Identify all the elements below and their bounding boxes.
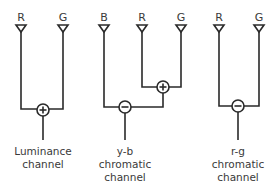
wire (244, 32, 259, 106)
luminance-channel: R G Luminance channel (14, 11, 71, 170)
input-label-r: R (138, 11, 146, 24)
caption-line: y-b (117, 145, 134, 157)
opponent-process-diagram: R G Luminance channel B R G y-b chromati… (0, 0, 276, 188)
rg-chromatic-channel: R G r-g chromatic channel (212, 11, 265, 183)
caption-line: channel (104, 171, 146, 183)
yb-chromatic-channel: B R G y-b chromatic channel (99, 11, 186, 183)
wire (49, 32, 63, 109)
wire (104, 32, 119, 107)
receptor-triangle-icon (254, 25, 264, 32)
caption-line: channel (22, 158, 64, 170)
receptor-triangle-icon (137, 25, 147, 32)
caption-line: chromatic (212, 158, 265, 170)
wire (169, 32, 181, 87)
receptor-triangle-icon (99, 25, 109, 32)
input-label-r: R (215, 11, 223, 24)
receptor-triangle-icon (214, 25, 224, 32)
caption-line: chromatic (99, 158, 152, 170)
receptor-triangle-icon (16, 25, 26, 32)
input-label-r: R (17, 11, 25, 24)
receptor-triangle-icon (176, 25, 186, 32)
input-label-b: B (100, 11, 108, 24)
caption-line: r-g (231, 145, 245, 157)
input-label-g: G (255, 11, 264, 24)
wire (219, 32, 232, 106)
input-label-g: G (59, 11, 68, 24)
input-label-g: G (177, 11, 186, 24)
wire (131, 93, 163, 107)
wire (21, 32, 37, 109)
wire (142, 32, 157, 87)
caption-line: Luminance (14, 145, 71, 157)
receptor-triangle-icon (58, 25, 68, 32)
caption-line: channel (217, 171, 259, 183)
